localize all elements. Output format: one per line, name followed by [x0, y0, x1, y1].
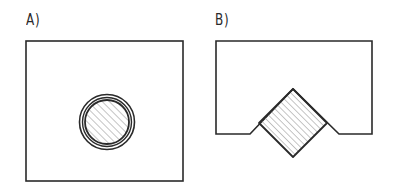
figure-b-hatched-square: [259, 89, 327, 157]
figure-b: [216, 41, 372, 157]
figure-a: [26, 41, 183, 181]
figure-a-hatched-disc: [85, 100, 129, 144]
diagram-canvas: [0, 0, 396, 192]
